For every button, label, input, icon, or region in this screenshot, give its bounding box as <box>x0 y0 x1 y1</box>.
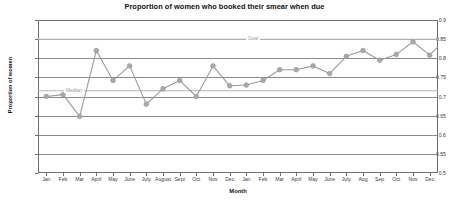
annotation-label-goal: Goal <box>246 36 260 41</box>
data-point-marker <box>411 39 416 44</box>
y-axis-title: Proportion of women <box>7 50 13 120</box>
data-point-marker <box>261 78 266 83</box>
x-axis-title: Month <box>38 188 438 194</box>
data-point-marker <box>377 58 382 63</box>
y-axis-tick-mark <box>35 173 38 174</box>
x-axis-tick-label: Dec <box>415 176 445 182</box>
annotation-label-median: Median <box>64 88 84 93</box>
series-line <box>46 38 438 116</box>
data-point-marker <box>277 67 282 72</box>
data-point-marker <box>194 94 199 99</box>
data-point-marker <box>244 83 249 88</box>
data-point-marker <box>394 52 399 57</box>
data-point-marker <box>127 64 132 69</box>
data-point-marker <box>427 53 432 58</box>
data-series-layer <box>38 20 438 173</box>
chart-container: Proportion of women who booked their sme… <box>0 0 449 203</box>
x-axis-tick-mark <box>430 173 431 176</box>
data-point-marker <box>227 83 232 88</box>
plot-area: GoalMedian <box>38 20 438 173</box>
data-point-marker <box>111 78 116 83</box>
data-point-marker <box>294 67 299 72</box>
data-point-marker <box>77 114 82 119</box>
chart-title: Proportion of women who booked their sme… <box>0 2 449 11</box>
data-point-marker <box>161 86 166 91</box>
data-point-marker <box>361 48 366 53</box>
data-point-marker <box>44 94 49 99</box>
data-point-marker <box>61 92 66 97</box>
data-point-marker <box>344 54 349 59</box>
data-point-marker <box>177 78 182 83</box>
data-point-marker <box>211 64 216 69</box>
data-point-marker <box>94 48 99 53</box>
data-point-marker <box>327 71 332 76</box>
data-point-marker <box>144 102 149 107</box>
data-point-marker <box>311 64 316 69</box>
